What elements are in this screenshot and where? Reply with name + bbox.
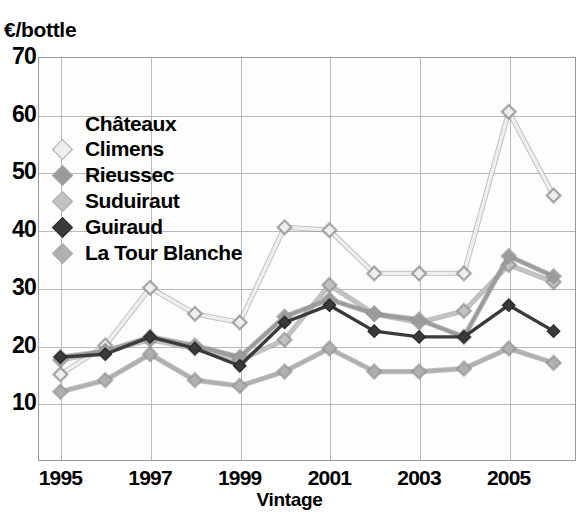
gridline-horizontal: [39, 404, 575, 405]
y-axis-tick-label: 10: [0, 389, 36, 416]
y-axis-tick-label: 20: [0, 332, 36, 359]
y-axis-tick-label: 30: [0, 274, 36, 301]
x-axis-tick-label: 2005: [474, 466, 544, 490]
gridline-vertical: [420, 58, 421, 460]
gridline-horizontal: [39, 347, 575, 348]
x-axis-tick-label: 1995: [25, 466, 95, 490]
gridline-horizontal: [39, 289, 575, 290]
y-axis-tick-label: 50: [0, 158, 36, 185]
price-by-vintage-line-chart: €/bottle 1020304050607019951997199920012…: [0, 0, 579, 519]
legend-item-label: Climens: [85, 137, 164, 161]
x-axis-title: Vintage: [0, 489, 579, 511]
legend-item-label: La Tour Blanche: [85, 241, 242, 265]
y-axis-tick-label: 70: [0, 43, 36, 70]
gridline-vertical: [510, 58, 511, 460]
x-axis-tick-label: 1997: [115, 466, 185, 490]
y-axis-tick-label: 40: [0, 216, 36, 243]
legend-item-label: Suduiraut: [85, 189, 179, 213]
y-axis-tick-label: 60: [0, 101, 36, 128]
legend-item-label: Rieussec: [85, 163, 174, 187]
x-axis-tick-label: 2003: [384, 466, 454, 490]
x-axis-tick-label: 2001: [294, 466, 364, 490]
legend-item-label: Guiraud: [85, 215, 163, 239]
gridline-vertical: [330, 58, 331, 460]
x-axis-tick-label: 1999: [205, 466, 275, 490]
legend-title: Châteaux: [85, 112, 176, 136]
y-axis-unit-label: €/bottle: [4, 18, 76, 42]
